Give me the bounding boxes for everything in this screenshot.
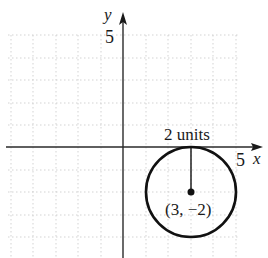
x-tick-label: 5	[236, 150, 245, 170]
y-axis	[119, 12, 127, 258]
y-axis-label: y	[102, 5, 112, 24]
x-axis	[6, 143, 263, 151]
x-axis-label: x	[252, 149, 261, 168]
center-point	[188, 189, 195, 196]
radius-label: 2 units	[164, 125, 210, 144]
coordinate-plane-diagram: y 5 x 5 2 units (3, −2)	[0, 0, 268, 258]
y-tick-label: 5	[105, 27, 114, 47]
center-label: (3, −2)	[165, 200, 211, 219]
